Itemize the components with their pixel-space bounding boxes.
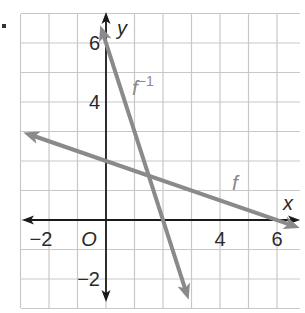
function-lines: [23, 25, 299, 299]
graph-plot: −24664−2Oxyf−1f: [0, 0, 305, 313]
f-inverse-superscript: −1: [138, 73, 154, 89]
f-inverse-label: f−1: [132, 73, 154, 99]
x-tick-label: 4: [214, 228, 225, 250]
y-tick-label: 6: [89, 32, 100, 54]
x-tick-label: 6: [271, 228, 282, 250]
y-tick-label: 4: [89, 91, 100, 113]
y-axis-label: y: [115, 17, 128, 39]
axes: [22, 12, 300, 302]
x-tick-label: −2: [30, 228, 53, 250]
y-tick-label: −2: [77, 268, 100, 290]
origin-label: O: [81, 228, 97, 250]
x-axis-label: x: [282, 192, 294, 214]
grid: [21, 14, 301, 309]
